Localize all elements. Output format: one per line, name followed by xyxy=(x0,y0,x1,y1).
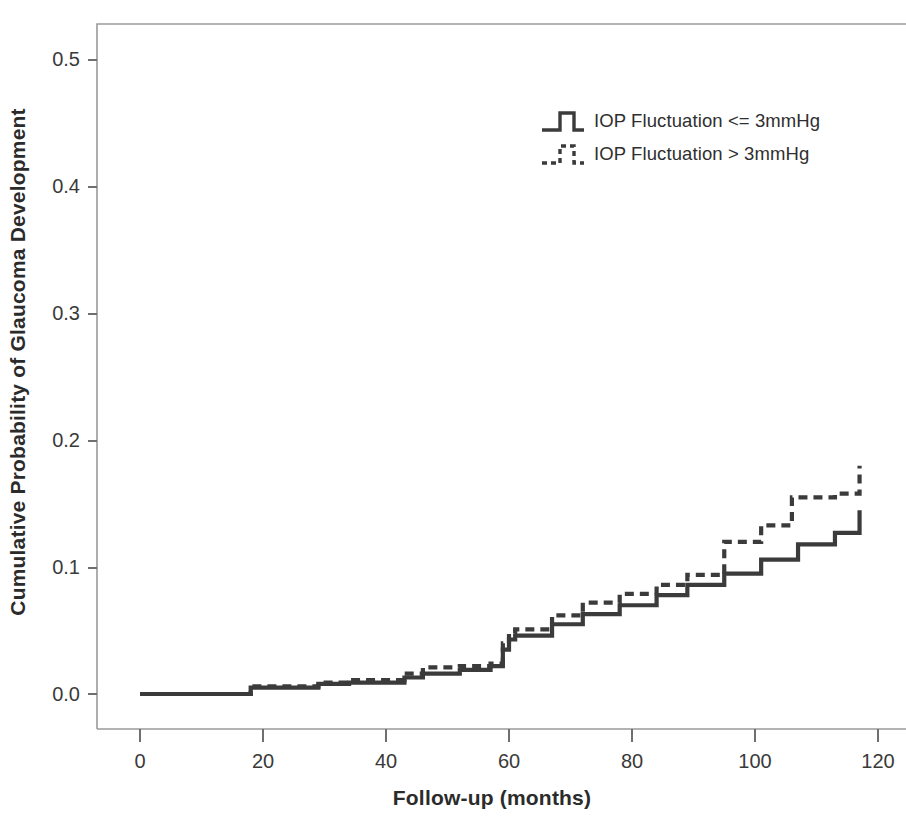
legend-entry-gt-3mmhg: IOP Fluctuation > 3mmHg xyxy=(540,137,870,170)
x-tick-marks xyxy=(140,729,878,742)
y-tick-marks xyxy=(88,60,97,694)
legend-label-gt-3mmhg: IOP Fluctuation > 3mmHg xyxy=(594,143,809,165)
kaplan-meier-chart: Cumulative Probability of Glaucoma Devel… xyxy=(0,0,906,821)
legend-entry-le-3mmhg: IOP Fluctuation <= 3mmHg xyxy=(540,104,870,137)
legend-sample-dashed-icon xyxy=(540,139,586,169)
legend-label-le-3mmhg: IOP Fluctuation <= 3mmHg xyxy=(594,110,820,132)
curve-iop-fluctuation-gt-3mmhg xyxy=(140,466,860,694)
curve-iop-fluctuation-le-3mmhg xyxy=(140,510,860,694)
legend-sample-solid-icon xyxy=(540,106,586,136)
legend: IOP Fluctuation <= 3mmHg IOP Fluctuation… xyxy=(540,104,870,170)
